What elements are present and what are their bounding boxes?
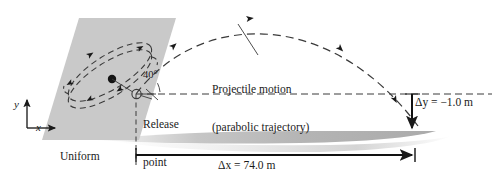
y-axis-label: y <box>14 98 19 110</box>
projectile-motion-label-line2: (parabolic trajectory) <box>212 121 309 134</box>
release-point-label-line2: point <box>143 156 179 169</box>
delta-y-label: Δy = −1.0 m <box>415 96 473 109</box>
projectile-motion-label-line1: Projectile motion <box>212 83 309 96</box>
release-point-label: Release point <box>143 92 179 183</box>
projectile-motion-label: Projectile motion (parabolic trajectory) <box>212 57 309 160</box>
delta-x-label: Δx = 74.0 m <box>218 159 275 172</box>
uniform-circular-motion-label-line1: Uniform <box>60 150 100 163</box>
projectile-motion-diagram: Projectile motion (parabolic trajectory)… <box>0 0 494 183</box>
projectile-label-leader <box>238 24 258 55</box>
angle-arc <box>158 83 161 92</box>
uniform-circular-motion-label: Uniform circular motion <box>60 124 100 183</box>
x-axis-label: x <box>36 121 41 133</box>
release-point-label-line1: Release <box>143 118 179 131</box>
launch-angle-label: 40° <box>143 69 158 81</box>
